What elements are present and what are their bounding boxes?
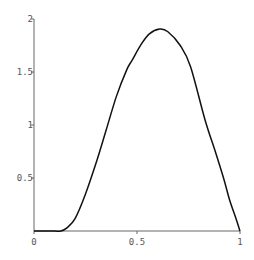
data-curve [34, 29, 240, 231]
chart: 0.511.52 00.51 [0, 0, 254, 260]
y-tick-label: 1.5 [17, 67, 33, 77]
x-tick-label: 0 [31, 237, 36, 247]
y-axis-ticks: 0.511.52 [17, 14, 34, 183]
y-tick-label: 2 [28, 14, 33, 24]
y-tick-label: 1 [28, 120, 33, 130]
x-tick-label: 1 [237, 237, 242, 247]
x-tick-label: 0.5 [129, 237, 145, 247]
y-tick-label: 0.5 [17, 173, 33, 183]
x-axis-ticks: 00.51 [31, 231, 242, 247]
